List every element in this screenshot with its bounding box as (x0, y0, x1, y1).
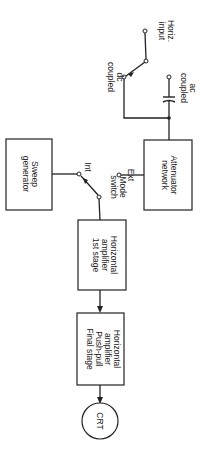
horiz-input-terminal (143, 29, 147, 33)
arrow-down-icon (97, 306, 103, 313)
svg-text:coupled: coupled (179, 73, 189, 103)
svg-text:CRT: CRT (95, 412, 105, 429)
svg-text:coupled: coupled (106, 62, 116, 92)
svg-text:network: network (160, 160, 170, 191)
mode-switch-label: Mode switch (109, 175, 128, 199)
ac-coupled-label: ac coupled (179, 73, 198, 103)
ac-terminal (167, 75, 171, 79)
svg-text:switch: switch (109, 175, 119, 199)
sweep-generator-label: Sweep generator (21, 156, 40, 193)
amp-final-stage-label: Horizontal amplifier Push-pull Final sta… (85, 328, 122, 370)
mode-switch-pivot (97, 195, 101, 199)
crt-label: CRT (95, 412, 105, 429)
horiz-input-label: Horiz. input (157, 20, 176, 42)
amp-first-stage-label: Horizontal amplifier 1st stage (91, 236, 119, 274)
block-diagram: Horiz. input ac coupled dc coupled Atten… (0, 0, 206, 460)
junction-dot (167, 116, 171, 120)
dc-wire (124, 79, 169, 118)
int-label: Int (83, 162, 93, 172)
svg-text:1st stage: 1st stage (91, 238, 101, 273)
attenuator-label: Attenuator network (160, 155, 179, 194)
input-wire (145, 33, 146, 59)
int-terminal (77, 172, 81, 176)
svg-text:generator: generator (21, 156, 31, 193)
svg-text:Final stage: Final stage (85, 328, 95, 370)
svg-text:input: input (157, 22, 167, 41)
svg-text:Int: Int (83, 162, 93, 172)
mode-switch-output-wire (99, 199, 100, 220)
dc-coupled-label: dc coupled (106, 62, 125, 92)
